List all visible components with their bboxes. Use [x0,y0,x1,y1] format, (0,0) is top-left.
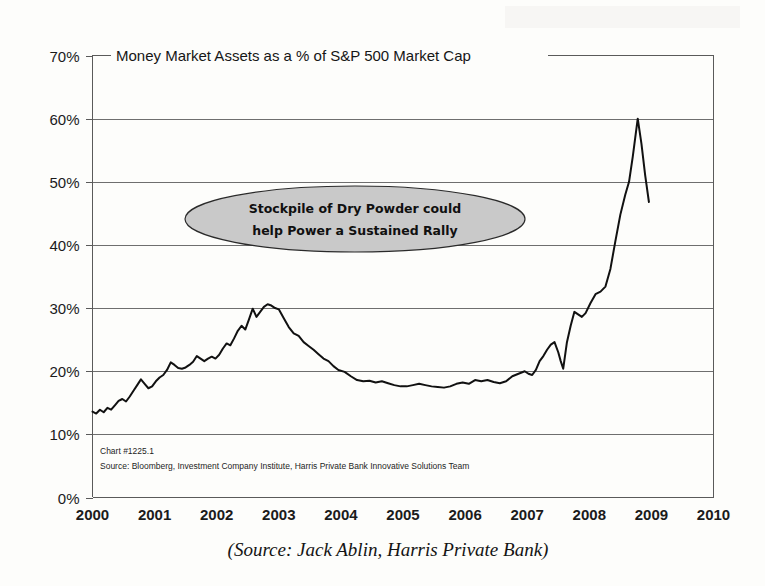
y-axis-label-10%: 10% [49,426,79,443]
x-axis-label-2009: 2009 [635,506,668,523]
y-axis-label-50%: 50% [49,174,79,191]
x-axis-label-2002: 2002 [200,506,233,523]
x-axis-label-2004: 2004 [324,506,358,523]
callout-ellipse [185,186,525,252]
x-axis-label-2007: 2007 [511,506,544,523]
callout-line-1: Stockpile of Dry Powder could [249,201,461,216]
x-axis-label-2003: 2003 [262,506,295,523]
paper-artifact [505,6,740,28]
figure-caption: (Source: Jack Ablin, Harris Private Bank… [228,539,549,561]
x-axis-label-2006: 2006 [448,506,481,523]
y-axis-label-30%: 30% [49,300,79,317]
x-axis-label-2010: 2010 [697,506,730,523]
y-axis-label-40%: 40% [49,237,79,254]
x-axis-label-2000: 2000 [76,506,109,523]
chart-title: Money Market Assets as a % of S&P 500 Ma… [116,47,471,64]
footnote-chart-number: Chart #1225.1 [100,446,154,456]
x-axis-label-2001: 2001 [138,506,171,523]
y-axis-label-60%: 60% [49,111,79,128]
money-market-assets-line-chart: 0%10%20%30%40%50%60%70% 2000200120022003… [0,0,765,586]
y-axis-label-20%: 20% [49,363,79,380]
callout-annotation: Stockpile of Dry Powder could help Power… [185,186,525,252]
x-axis-label-2008: 2008 [573,506,606,523]
footnote-source: Source: Bloomberg, Investment Company In… [100,461,469,471]
x-axis-label-2005: 2005 [386,506,419,523]
callout-line-2: help Power a Sustained Rally [252,223,458,238]
chart-figure: 0%10%20%30%40%50%60%70% 2000200120022003… [0,0,765,586]
y-axis-label-0%: 0% [58,490,80,507]
y-axis-label-70%: 70% [49,48,79,65]
